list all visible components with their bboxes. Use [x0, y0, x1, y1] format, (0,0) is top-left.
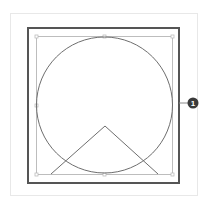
diagram-canvas: 1 [0, 0, 212, 207]
inscribed-circle [37, 37, 173, 173]
triangle [51, 126, 158, 174]
callout-marker: 1 [188, 98, 199, 109]
guide-handles [35, 35, 174, 176]
outer-frame [11, 14, 198, 196]
callout-label: 1 [191, 99, 196, 108]
dark-frame [28, 28, 179, 183]
